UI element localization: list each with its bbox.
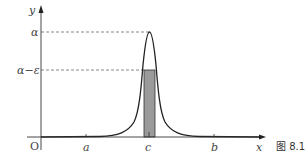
shaded-rectangle: [144, 70, 155, 137]
diagram-canvas: y α α−ε O a c b x 图 8.1: [0, 0, 307, 166]
origin-label: O: [30, 140, 39, 153]
x-tick-label-c: c: [145, 141, 151, 154]
alpha-label: α: [31, 26, 39, 39]
y-axis-label: y: [28, 4, 36, 17]
x-axis-label: x: [256, 141, 263, 154]
figure: y α α−ε O a c b x 图 8.1: [0, 0, 307, 166]
x-axis-arrow-icon: [259, 135, 266, 140]
y-axis-arrow-icon: [39, 5, 44, 13]
x-tick-label-b: b: [211, 141, 218, 154]
alpha-eps-label: α−ε: [17, 64, 40, 77]
x-tick-label-a: a: [83, 141, 90, 154]
figure-caption: 图 8.1: [276, 141, 305, 152]
